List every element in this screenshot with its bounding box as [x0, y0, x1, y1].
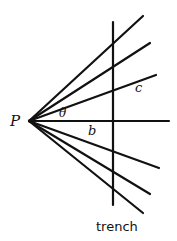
diagram-svg: P θ b c trench: [0, 0, 177, 241]
label-theta: θ: [59, 106, 67, 120]
ray-upper-1: [29, 16, 143, 121]
ray-lower-3: [29, 121, 143, 213]
label-trench: trench: [96, 219, 138, 234]
label-p: P: [9, 112, 21, 130]
ray-upper-2: [29, 43, 150, 121]
label-b: b: [88, 123, 96, 138]
label-c: c: [135, 80, 143, 95]
trench-ray-diagram: P θ b c trench: [0, 0, 177, 241]
